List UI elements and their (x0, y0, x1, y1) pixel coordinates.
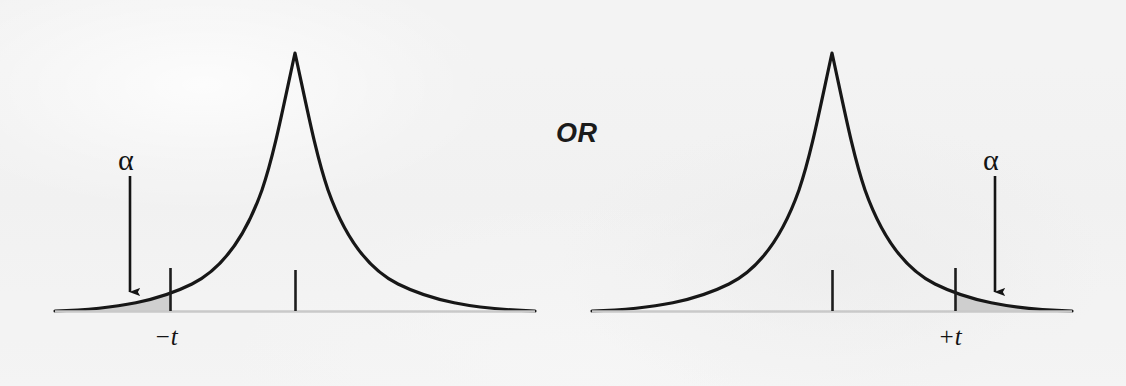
upper-tail-panel (592, 53, 1072, 312)
tdistribution-figure: α −t OR α +t (0, 0, 1126, 386)
lower-tail-panel (55, 53, 535, 312)
distribution-plot (0, 0, 1126, 386)
